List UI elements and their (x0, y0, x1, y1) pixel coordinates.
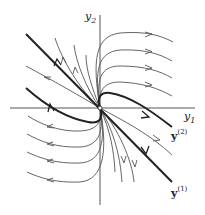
trajectory (27, 108, 104, 182)
trajectory (96, 32, 173, 108)
arrow-icon (44, 77, 51, 80)
arrow-icon (145, 82, 152, 87)
trajectory (100, 82, 172, 108)
trajectory (27, 108, 103, 163)
trajectory (100, 108, 134, 182)
arrow-markers-lower-left (47, 124, 54, 182)
trajectories-lower-left (27, 108, 104, 182)
arrow-icon (61, 57, 66, 64)
trajectory (97, 50, 172, 108)
trajectory (28, 108, 100, 131)
y2-axis-label: y2 (84, 10, 96, 25)
arrow-icon (73, 67, 78, 74)
eigen-label-y2: y(2) (170, 128, 188, 143)
eigen-curve-y2 (99, 93, 172, 127)
eigen-label-y1: y(1) (170, 185, 188, 200)
arrow-icon (47, 124, 54, 128)
arrow-markers-upper-right (145, 32, 152, 87)
y1-axis-label: y1 (183, 110, 195, 125)
arrow-icon (132, 160, 137, 167)
arrow-icon (121, 156, 126, 163)
trajectories-upper-right (48, 32, 173, 108)
trajectory (100, 108, 172, 155)
arrow-icon (145, 32, 152, 37)
origin-point (98, 106, 102, 110)
eigen-curve-y2-neg (26, 88, 101, 122)
phase-portrait-figure: y2 y1 y(2) y(1) (0, 0, 205, 215)
arrow-icon (141, 111, 149, 118)
